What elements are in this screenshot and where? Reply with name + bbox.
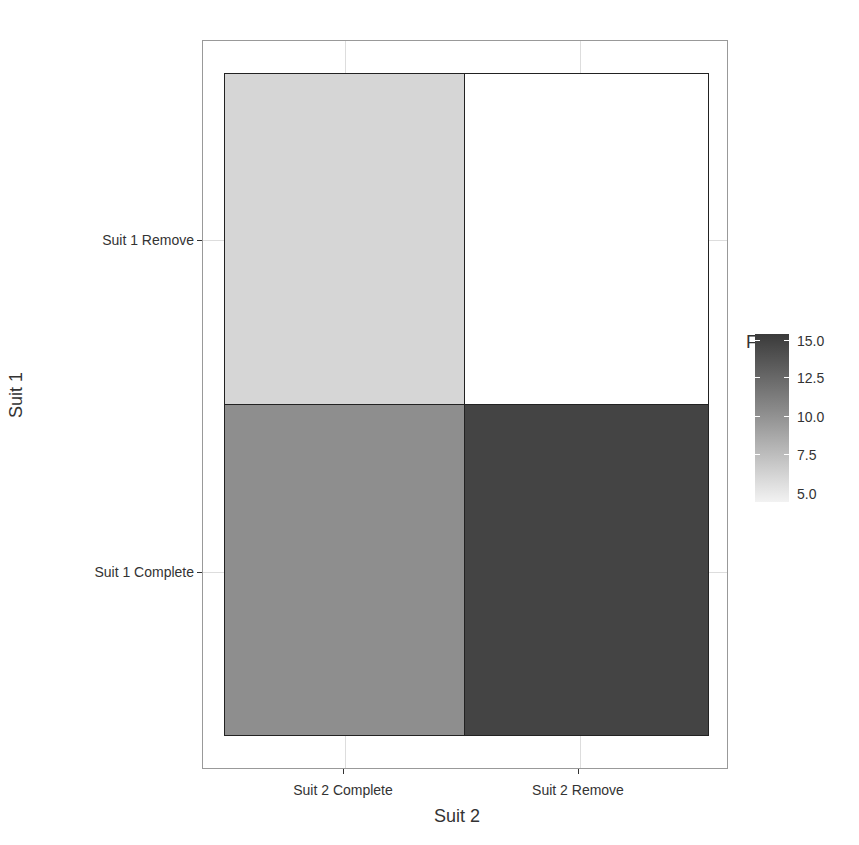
- cb-tick-12-5: [755, 377, 760, 378]
- cb-tick-10: [755, 416, 760, 417]
- tile-complete-remove: [464, 404, 709, 736]
- xtick-label-remove: Suit 2 Remove: [478, 782, 678, 798]
- tile-remove-remove: [464, 73, 709, 406]
- cb-tick-10-r: [784, 416, 789, 417]
- legend-tick-10: 10.0: [797, 409, 824, 425]
- ytick-mark-remove: [197, 240, 202, 241]
- cb-tick-15-r: [784, 340, 789, 341]
- ytick-label-complete: Suit 1 Complete: [14, 564, 194, 580]
- xtick-label-complete: Suit 2 Complete: [243, 782, 443, 798]
- xtick-mark-complete: [343, 769, 344, 774]
- ytick-mark-complete: [197, 572, 202, 573]
- plot-panel: [202, 40, 728, 769]
- cb-tick-15: [755, 340, 760, 341]
- tile-complete-complete: [224, 404, 466, 736]
- xtick-mark-remove: [578, 769, 579, 774]
- x-axis-title: Suit 2: [434, 806, 480, 827]
- y-axis-title: Suit 1: [6, 372, 27, 418]
- cb-tick-12-5-r: [784, 377, 789, 378]
- colorbar: [755, 334, 789, 502]
- tile-remove-complete: [224, 73, 466, 406]
- cb-tick-7-5: [755, 454, 760, 455]
- ytick-label-remove: Suit 1 Remove: [14, 232, 194, 248]
- legend-tick-12-5: 12.5: [797, 370, 824, 386]
- cb-tick-7-5-r: [784, 454, 789, 455]
- legend-tick-7-5: 7.5: [797, 447, 816, 463]
- legend-tick-15: 15.0: [797, 333, 824, 349]
- legend-tick-5: 5.0: [797, 486, 816, 502]
